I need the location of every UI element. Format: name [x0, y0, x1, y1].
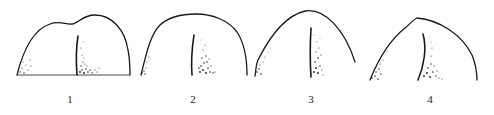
panel-4-stipple	[371, 37, 442, 80]
panel-4-outline	[370, 18, 477, 80]
panel-3-label: 3	[301, 93, 321, 105]
panel-1-inner-line	[76, 36, 78, 75]
panel-3-stipple	[256, 35, 323, 76]
panel-2-inner-line	[192, 35, 194, 75]
panel-2-outline	[141, 14, 247, 75]
panel-4-inner-line	[418, 34, 425, 80]
panel-4-label: 4	[420, 93, 440, 105]
panel-3-inner-line	[310, 28, 311, 77]
panel-3-drawing	[255, 11, 355, 77]
panel-1-drawing	[17, 15, 130, 75]
panel-2-stipple	[141, 40, 215, 75]
panel-1-stipple	[19, 42, 99, 74]
panel-2-label: 2	[183, 93, 203, 105]
panel-4-drawing	[370, 18, 477, 80]
panel-1-label: 1	[60, 93, 80, 105]
panel-2-drawing	[141, 14, 247, 75]
panel-3-outline	[255, 11, 355, 76]
panel-1-outline	[17, 15, 130, 75]
